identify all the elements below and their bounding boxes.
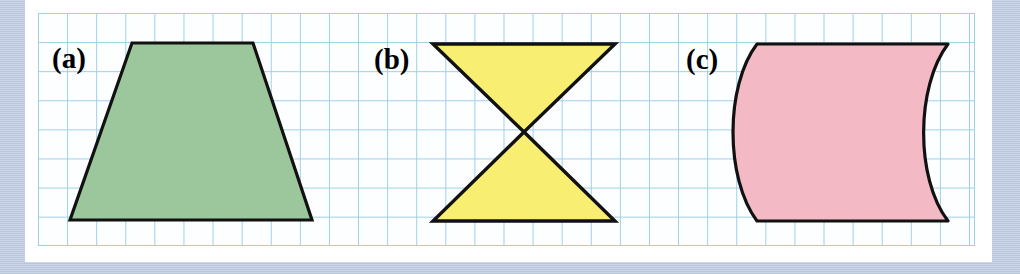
graph-paper-grid [38,13,975,246]
figure-label-b: (b) [374,45,409,74]
figure-label-a: (a) [52,44,86,73]
figure-label-c: (c) [686,45,718,74]
figure-page: (a) (b) (c) [0,0,1020,274]
